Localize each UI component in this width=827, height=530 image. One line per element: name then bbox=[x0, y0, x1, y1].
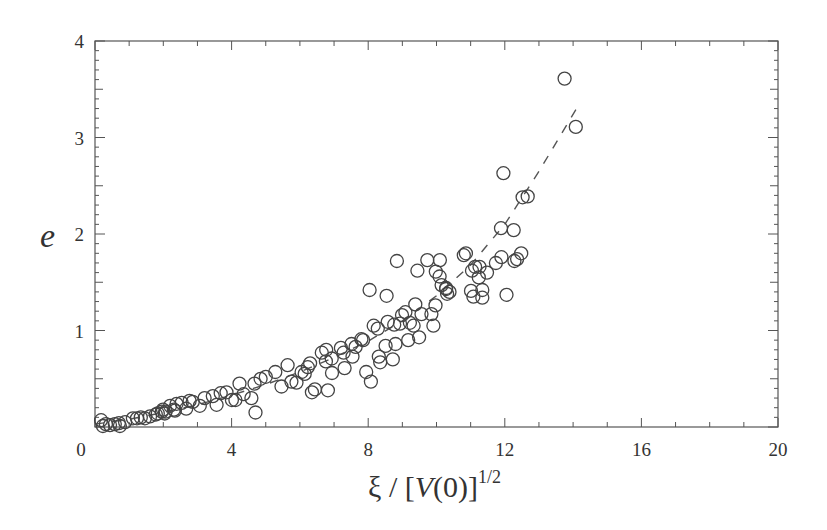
x-tick-label: 0 bbox=[76, 439, 86, 460]
x-tick-label: 16 bbox=[632, 439, 651, 460]
data-point bbox=[315, 346, 328, 359]
data-point bbox=[409, 298, 422, 311]
x-axis-label-xi: ξ bbox=[368, 470, 381, 503]
data-points bbox=[95, 72, 583, 432]
data-point bbox=[497, 167, 510, 180]
fit-curve-dashed bbox=[95, 109, 577, 425]
svg-text:ξ / [V(0)]1/2: ξ / [V(0)]1/2 bbox=[368, 467, 501, 504]
data-point bbox=[429, 299, 442, 312]
data-point bbox=[396, 309, 409, 322]
data-point bbox=[495, 222, 508, 235]
data-point bbox=[206, 390, 219, 403]
data-point bbox=[386, 353, 399, 366]
y-tick-labels: 1234 bbox=[75, 31, 85, 342]
x-tick-label: 8 bbox=[363, 439, 373, 460]
data-point bbox=[421, 254, 434, 267]
y-axis-label: e bbox=[40, 217, 55, 254]
x-tick-labels: 048121620 bbox=[76, 439, 787, 460]
data-point bbox=[415, 308, 428, 321]
data-point bbox=[379, 339, 392, 352]
data-point bbox=[390, 255, 403, 268]
x-tick-label: 12 bbox=[495, 439, 514, 460]
data-point bbox=[500, 288, 513, 301]
data-point bbox=[305, 386, 318, 399]
data-point bbox=[380, 289, 393, 302]
data-point bbox=[249, 406, 262, 419]
plot-frame bbox=[95, 41, 778, 427]
data-point bbox=[321, 384, 334, 397]
y-tick-label: 1 bbox=[75, 321, 85, 342]
data-point bbox=[338, 362, 351, 375]
axis-ticks bbox=[95, 41, 778, 427]
data-point bbox=[367, 319, 380, 332]
data-point bbox=[326, 367, 339, 380]
data-point bbox=[275, 380, 288, 393]
data-point bbox=[427, 319, 440, 332]
data-point bbox=[411, 264, 424, 277]
x-axis-label: ξ / [V(0)]1/2 bbox=[368, 467, 501, 504]
x-tick-label: 20 bbox=[769, 439, 788, 460]
data-point bbox=[558, 72, 571, 85]
data-point bbox=[507, 224, 520, 237]
y-tick-label: 3 bbox=[75, 128, 85, 149]
data-point bbox=[245, 392, 258, 405]
scatter-chart: 048121620 1234 e ξ / [V(0)]1/2 bbox=[0, 0, 827, 530]
y-tick-label: 4 bbox=[75, 31, 85, 52]
data-point bbox=[281, 359, 294, 372]
data-point bbox=[363, 284, 376, 297]
data-point bbox=[371, 322, 384, 335]
y-tick-label: 2 bbox=[75, 224, 85, 245]
x-tick-label: 4 bbox=[227, 439, 237, 460]
data-point bbox=[308, 383, 321, 396]
data-point bbox=[569, 120, 582, 133]
